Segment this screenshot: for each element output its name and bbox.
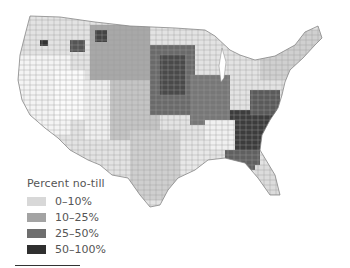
legend-label: 25–50%: [55, 227, 99, 240]
legend-title: Percent no-till: [27, 177, 106, 190]
legend: Percent no-till 0–10% 10–25% 25–50% 50–1…: [27, 177, 106, 257]
legend-swatch: [27, 197, 46, 206]
legend-item: 0–10%: [27, 193, 106, 209]
footnote-rule: [15, 265, 80, 266]
legend-item: 25–50%: [27, 225, 106, 241]
legend-label: 0–10%: [55, 195, 92, 208]
legend-swatch: [27, 213, 46, 222]
legend-swatch: [27, 245, 46, 254]
legend-item: 10–25%: [27, 209, 106, 225]
legend-item: 50–100%: [27, 241, 106, 257]
legend-label: 10–25%: [55, 211, 99, 224]
legend-label: 50–100%: [55, 243, 106, 256]
legend-swatch: [27, 229, 46, 238]
